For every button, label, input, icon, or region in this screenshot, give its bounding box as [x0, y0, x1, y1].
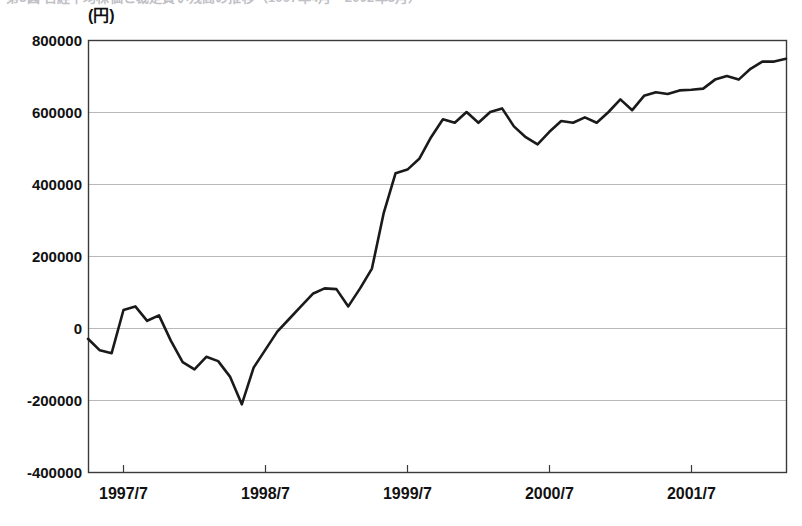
x-tick-label: 1997/7: [99, 486, 148, 502]
y-tick-label: -400000: [2, 465, 82, 480]
x-tick-label: 2001/7: [667, 486, 716, 502]
series-line: [88, 59, 786, 405]
plot-svg: [0, 0, 802, 526]
y-tick-label: 600000: [2, 105, 82, 120]
y-tick-label: -200000: [2, 393, 82, 408]
chart-figure: 第3図 日経平均株価と裁定買い残高の推移（1997年4月〜2002年3月） (円…: [0, 0, 802, 526]
plot-area: [0, 0, 802, 526]
y-axis-tick-labels: 8000006000004000002000000-200000-400000: [0, 0, 82, 526]
y-tick-label: 800000: [2, 33, 82, 48]
x-tick-label: 2000/7: [525, 486, 574, 502]
y-tick-label: 400000: [2, 177, 82, 192]
x-tick-label: 1999/7: [383, 486, 432, 502]
x-axis-tick-labels: 1997/71998/71999/72000/72001/7: [0, 486, 802, 516]
y-tick-label: 0: [2, 321, 82, 336]
xtick-marks-group: [124, 465, 692, 472]
x-tick-label: 1998/7: [241, 486, 290, 502]
y-tick-label: 200000: [2, 249, 82, 264]
gridlines-group: [88, 113, 786, 401]
